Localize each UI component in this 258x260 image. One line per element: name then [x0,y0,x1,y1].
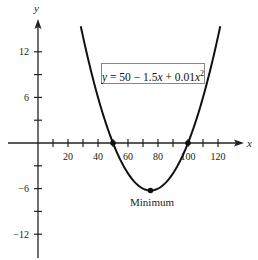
y-tick-label: −6 [18,183,29,194]
y-axis-label: y [33,2,39,14]
data-point [110,140,116,146]
y-tick-label: 12 [19,46,29,57]
x-tick-label: 60 [123,151,133,162]
x-tick-label: 80 [153,151,163,162]
equation-box: y = 50 − 1.5x + 0.01x2 [101,63,205,84]
data-points [110,140,191,193]
x-tick-label: 20 [63,151,73,162]
equation-exponent: 2 [200,69,204,78]
minimum-annotation: Minimum [130,196,174,208]
parabola-curve [81,26,221,190]
equation-rhs: = 50 − 1.5 [107,71,157,83]
equation-mid: + 0.01 [163,71,195,83]
data-point [185,140,191,146]
y-tick-label: −12 [13,229,29,240]
data-point [148,188,154,194]
x-tick-label: 120 [211,151,226,162]
x-tick-label: 40 [93,151,103,162]
y-tick-label: 6 [24,92,29,103]
axes [8,19,244,258]
x-axis-label: x [246,137,252,149]
chart-canvas: 20406080100120126−6−12 x y [0,0,258,260]
